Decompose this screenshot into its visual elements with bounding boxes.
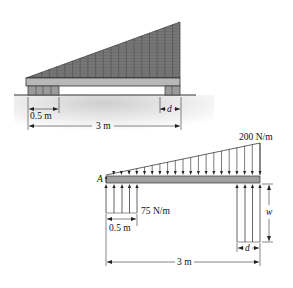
reaction-arrowhead [135, 184, 138, 188]
top-dim-0-5m-label: 0.5 m [30, 111, 52, 121]
load-arrowhead [251, 171, 254, 175]
reaction-arrowhead [243, 184, 246, 188]
reaction-arrowhead [104, 184, 107, 188]
load-arrowhead [166, 171, 169, 175]
load-arrowhead [212, 171, 215, 175]
load-arrowhead [120, 171, 123, 175]
fbd-dim-0-5m-label: 0.5 m [109, 223, 131, 233]
max-load-label: 200 N/m [239, 132, 273, 142]
top-view: 0.5 m d 3 m [14, 22, 214, 135]
top-dim-d-label: d [167, 104, 172, 114]
wood-stack-outline [26, 22, 180, 78]
load-arrowhead [259, 171, 262, 175]
beam-diagram: 0.5 m d 3 m 200 N/m A 75 N/m w [0, 0, 293, 288]
reaction-arrowhead [258, 184, 261, 188]
left-reaction-load [104, 184, 138, 213]
reaction-arrowhead [120, 184, 123, 188]
w-label: w [266, 207, 273, 217]
distributed-load [106, 143, 262, 175]
right-pad [165, 86, 180, 95]
right-reaction-load [235, 184, 261, 242]
reaction-arrowhead [112, 184, 115, 188]
left-pad [28, 86, 59, 95]
top-dim-3m-label: 3 m [96, 121, 111, 131]
load-arrowhead [205, 171, 208, 175]
load-arrowhead [174, 171, 177, 175]
load-arrowhead [151, 171, 154, 175]
load-arrowhead [228, 171, 231, 175]
reaction-arrowhead [128, 184, 131, 188]
fbd-dim-3m-label: 3 m [177, 257, 192, 267]
beam [106, 176, 260, 183]
load-arrowhead [243, 171, 246, 175]
wood-stack [26, 22, 180, 78]
load-arrowhead [143, 171, 146, 175]
reaction-arrowhead [235, 184, 238, 188]
free-body-diagram: 200 N/m A 75 N/m w 0.5 m d 3 m [96, 132, 273, 267]
load-arrowhead [135, 171, 138, 175]
load-arrowhead [220, 171, 223, 175]
left-load-label: 75 N/m [141, 206, 170, 216]
plank [26, 78, 180, 86]
load-arrowhead [197, 171, 200, 175]
load-arrowhead [189, 171, 192, 175]
load-arrowhead [235, 171, 238, 175]
load-arrowhead [128, 171, 131, 175]
reaction-arrowhead [251, 184, 254, 188]
point-a-label: A [96, 174, 103, 184]
load-arrowhead [182, 171, 185, 175]
load-arrowhead [158, 171, 161, 175]
fbd-dim-d-label: d [245, 243, 250, 253]
